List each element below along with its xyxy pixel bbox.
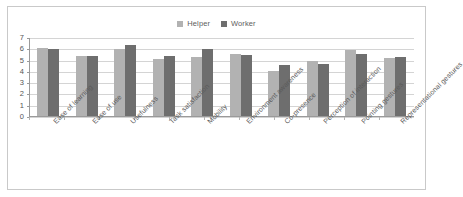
bar-worker (125, 45, 136, 117)
y-tick-label: 5 (20, 57, 24, 65)
chart-legend: Helper Worker (8, 19, 425, 28)
bar-chart-figure: Helper Worker 01234567 Ease of learningE… (7, 6, 426, 190)
y-axis-ticks: 01234567 (8, 38, 27, 117)
bar-helper (37, 48, 48, 117)
legend-entry-worker: Worker (221, 19, 256, 28)
legend-entry-helper: Helper (177, 19, 210, 28)
y-tick-mark (27, 38, 29, 39)
bar-helper (153, 59, 164, 117)
y-tick-mark (27, 61, 29, 62)
bar-helper (230, 54, 241, 117)
legend-swatch-helper (177, 21, 183, 27)
y-tick-label: 6 (20, 46, 24, 54)
y-tick-mark (27, 83, 29, 84)
bar-worker (164, 56, 175, 117)
bar-helper (345, 50, 356, 117)
y-tick-mark (27, 49, 29, 50)
y-tick-label: 3 (20, 79, 24, 87)
legend-label-helper: Helper (187, 19, 210, 28)
bar-helper (307, 61, 318, 117)
y-tick-mark (27, 117, 29, 118)
bar-helper (114, 49, 125, 117)
bar-group (29, 38, 68, 117)
bar-worker (318, 64, 329, 117)
y-tick-label: 7 (20, 34, 24, 42)
legend-swatch-worker (221, 21, 227, 27)
y-tick-label: 0 (20, 113, 24, 121)
y-tick-label: 4 (20, 68, 24, 76)
legend-label-worker: Worker (231, 19, 256, 28)
y-tick-mark (27, 94, 29, 95)
y-tick-mark (27, 106, 29, 107)
y-tick-mark (27, 72, 29, 73)
y-tick-label: 2 (20, 91, 24, 99)
bar-worker (48, 49, 59, 117)
y-tick-label: 1 (20, 102, 24, 110)
x-axis-labels: Ease of learningEase of useUsefulnessTas… (29, 120, 414, 190)
bar-worker (241, 55, 252, 117)
